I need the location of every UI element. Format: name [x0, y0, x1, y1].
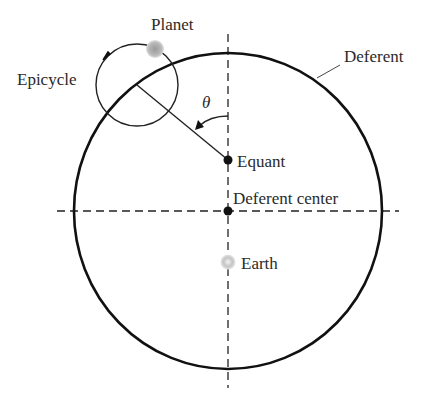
deferent-leader-line — [317, 65, 340, 78]
planet-label: Planet — [151, 16, 194, 33]
theta-arrow-icon — [195, 120, 204, 130]
equant-point — [224, 156, 233, 165]
deferent-label: Deferent — [344, 48, 403, 65]
deferent-center-point — [224, 207, 233, 216]
earth-icon — [221, 255, 236, 270]
theta-label: θ — [202, 94, 210, 111]
earth-label: Earth — [241, 255, 278, 272]
equant-label: Equant — [237, 153, 285, 170]
theta-arc — [199, 116, 228, 126]
epicycle-label: Epicycle — [17, 71, 76, 88]
planet-icon — [146, 40, 164, 58]
ptolemaic-model-diagram: Planet Epicycle Deferent θ Equant Defere… — [0, 0, 435, 400]
deferent-center-label: Deferent center — [233, 190, 338, 207]
equant-radius-line — [137, 85, 228, 160]
